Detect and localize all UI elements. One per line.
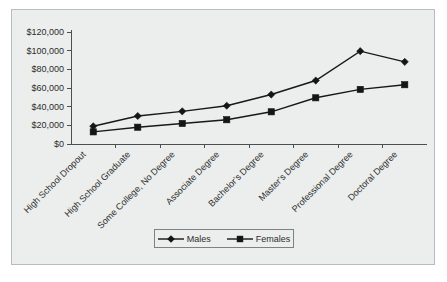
x-tick-label: Doctoral Degree [346, 149, 399, 202]
data-point-marker-females [90, 129, 96, 135]
y-tick-label: $100,000 [26, 46, 64, 56]
legend-entry-females[interactable]: Females [227, 234, 291, 244]
data-point-marker-males [223, 102, 230, 109]
square-marker-icon [227, 234, 253, 244]
line-chart-plot: $0$20,000$40,000$60,000$80,000$100,000$1… [12, 10, 436, 266]
data-point-marker-males [134, 112, 141, 119]
x-tick-label: Some College, No Degree [95, 149, 176, 230]
data-point-marker-males [312, 77, 319, 84]
legend-entry-males[interactable]: Males [158, 234, 211, 244]
y-tick-label: $80,000 [31, 64, 64, 74]
x-axis [71, 144, 427, 148]
data-point-marker-females [268, 109, 274, 115]
y-tick-label: $40,000 [31, 102, 64, 112]
x-tick-labels: High School DropoutHigh School GraduateS… [22, 149, 399, 231]
chart-panel: $0$20,000$40,000$60,000$80,000$100,000$1… [11, 9, 435, 265]
diamond-marker-icon [158, 234, 184, 244]
data-point-marker-females [135, 124, 141, 130]
data-point-marker-males [357, 48, 364, 55]
y-tick-label: $20,000 [31, 120, 64, 130]
data-point-marker-females [224, 117, 230, 123]
data-point-marker-females [402, 82, 408, 88]
data-point-marker-females [313, 95, 319, 101]
data-point-marker-females [357, 86, 363, 92]
legend-label: Females [256, 234, 291, 244]
legend-label: Males [187, 234, 211, 244]
y-axis: $0$20,000$40,000$60,000$80,000$100,000$1… [26, 27, 71, 149]
y-tick-label: $120,000 [26, 27, 64, 37]
series-layer [90, 48, 409, 135]
y-tick-label: $0 [54, 139, 64, 149]
data-point-marker-males [179, 108, 186, 115]
data-point-marker-males [268, 91, 275, 98]
chart-legend: MalesFemales [154, 229, 294, 248]
y-tick-label: $60,000 [31, 83, 64, 93]
data-point-marker-males [401, 58, 408, 65]
data-point-marker-females [179, 120, 185, 126]
